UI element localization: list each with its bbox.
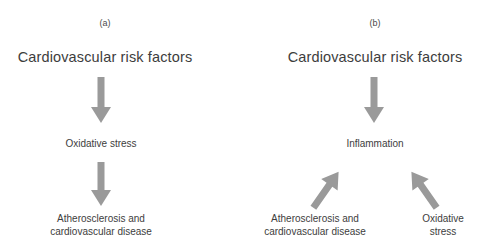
panel-a-arrow-middle-to-leaf [89, 162, 113, 207]
figure-canvas: (a) Cardiovascular risk factors Oxidativ… [0, 0, 491, 251]
panel-a-leaf-node-1: Atherosclerosis and cardiovascular disea… [26, 212, 176, 238]
panel-a-middle-node: Oxidative stress [41, 137, 161, 150]
panel-a-root-node: Cardiovascular risk factors [5, 48, 205, 67]
panel-b-arrow-root-to-middle [362, 77, 386, 124]
panel-b-label: (b) [340, 18, 410, 30]
panel-b-arrow-middle-to-leaf-1 [300, 158, 360, 210]
panel-b-leaf-node-1: Atherosclerosis and cardiovascular disea… [240, 212, 390, 238]
panel-b-leaf-node-2: Oxidative stress [403, 212, 483, 238]
panel-b-root-node: Cardiovascular risk factors [275, 48, 475, 67]
panel-a-arrow-root-to-middle [89, 77, 113, 124]
panel-b-middle-node: Inflammation [315, 137, 435, 150]
panel-a-label: (a) [70, 18, 140, 30]
panel-b-arrow-middle-to-leaf-2 [390, 158, 450, 210]
